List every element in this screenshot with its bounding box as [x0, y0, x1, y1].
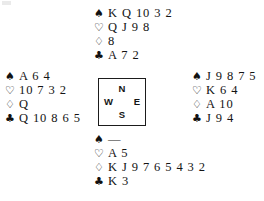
south-hearts-row: ♡ A 5 — [94, 146, 206, 160]
north-spades-row: ♠ K Q 10 3 2 — [94, 6, 173, 20]
west-spades-row: ♠ A 6 4 — [5, 69, 81, 83]
hand-east: ♠ J 9 8 7 5 ♡ K 6 4 ♢ A 10 ♣ J 9 4 — [192, 69, 256, 125]
scan-artifact — [2, 1, 11, 5]
west-diamonds-row: ♢ Q — [5, 97, 81, 111]
club-icon: ♣ — [94, 49, 105, 63]
east-clubs-cards: J 9 4 — [203, 111, 234, 125]
north-hearts-row: ♡ Q J 9 8 — [94, 20, 173, 34]
compass-box: N W E S — [98, 78, 146, 126]
club-icon: ♣ — [5, 112, 16, 126]
south-diamonds-cards: K J 9 7 6 5 4 3 2 — [105, 160, 206, 174]
diamond-icon: ♢ — [192, 98, 203, 112]
heart-icon: ♡ — [192, 84, 203, 98]
spade-icon: ♠ — [94, 7, 105, 21]
east-spades-row: ♠ J 9 8 7 5 — [192, 69, 256, 83]
west-clubs-row: ♣ Q 10 8 6 5 — [5, 111, 81, 125]
diamond-icon: ♢ — [94, 161, 105, 175]
west-diamonds-cards: Q — [16, 97, 29, 111]
north-spades-cards: K Q 10 3 2 — [105, 6, 173, 20]
west-clubs-cards: Q 10 8 6 5 — [16, 111, 81, 125]
compass-south-label: S — [99, 110, 145, 120]
west-hearts-row: ♡ 10 7 3 2 — [5, 83, 81, 97]
east-hearts-row: ♡ K 6 4 — [192, 83, 256, 97]
north-clubs-row: ♣ A 7 2 — [94, 48, 173, 62]
south-hearts-cards: A 5 — [105, 146, 128, 160]
hand-north: ♠ K Q 10 3 2 ♡ Q J 9 8 ♢ 8 ♣ A 7 2 — [94, 6, 173, 62]
heart-icon: ♡ — [5, 84, 16, 98]
east-hearts-cards: K 6 4 — [203, 83, 238, 97]
heart-icon: ♡ — [94, 21, 105, 35]
north-clubs-cards: A 7 2 — [105, 48, 140, 62]
north-diamonds-cards: 8 — [105, 34, 115, 48]
west-spades-cards: A 6 4 — [16, 69, 51, 83]
east-diamonds-row: ♢ A 10 — [192, 97, 256, 111]
south-clubs-cards: K 3 — [105, 174, 129, 188]
south-diamonds-row: ♢ K J 9 7 6 5 4 3 2 — [94, 160, 206, 174]
diamond-icon: ♢ — [5, 98, 16, 112]
south-clubs-row: ♣ K 3 — [94, 174, 206, 188]
compass-east-label: E — [134, 97, 140, 107]
north-diamonds-row: ♢ 8 — [94, 34, 173, 48]
west-hearts-cards: 10 7 3 2 — [16, 83, 67, 97]
hand-south: ♠ — ♡ A 5 ♢ K J 9 7 6 5 4 3 2 ♣ K 3 — [94, 132, 206, 188]
hand-west: ♠ A 6 4 ♡ 10 7 3 2 ♢ Q ♣ Q 10 8 6 5 — [5, 69, 81, 125]
south-spades-row: ♠ — — [94, 132, 206, 146]
club-icon: ♣ — [192, 112, 203, 126]
east-clubs-row: ♣ J 9 4 — [192, 111, 256, 125]
compass-north-label: N — [99, 84, 145, 94]
east-spades-cards: J 9 8 7 5 — [203, 69, 256, 83]
compass-west-label: W — [104, 97, 113, 107]
club-icon: ♣ — [94, 175, 105, 189]
heart-icon: ♡ — [94, 147, 105, 161]
north-hearts-cards: Q J 9 8 — [105, 20, 150, 34]
spade-icon: ♠ — [5, 70, 16, 84]
diamond-icon: ♢ — [94, 35, 105, 49]
south-spades-cards: — — [105, 132, 121, 146]
spade-icon: ♠ — [192, 70, 203, 84]
east-diamonds-cards: A 10 — [203, 97, 234, 111]
spade-icon: ♠ — [94, 133, 105, 147]
